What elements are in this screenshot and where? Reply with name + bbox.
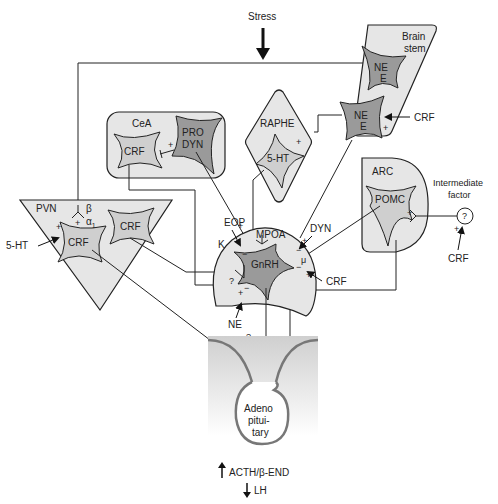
pvn-crf-1-label: CRF — [68, 237, 89, 248]
mu-receptor-label: μ — [301, 255, 306, 265]
stress-reproductive-axis-diagram: Stress Brain stem NE E NE E CRF + CeA CR… — [0, 0, 498, 504]
arc-label: ARC — [372, 166, 393, 177]
brainstem-crf-label: CRF — [414, 112, 435, 123]
pvn-plus-1: + — [75, 218, 80, 228]
gnrh-label: GnRH — [251, 259, 279, 270]
lh-output-label: LH — [254, 485, 267, 496]
mpoa-plus-1: + — [238, 221, 243, 231]
ne-cell-1-label-2: E — [380, 73, 387, 84]
adeno-label-3: tary — [252, 427, 269, 438]
pvn-label: PVN — [36, 203, 57, 214]
arc-region: ARC POMC + — [362, 158, 428, 252]
intermediate-factor: Intermediate factor ? + CRF — [433, 178, 483, 264]
ne-to-mpoa-arrow-icon — [236, 304, 241, 318]
pvn-5ht-input-label: 5-HT — [6, 240, 28, 251]
raphe-region: RAPHE 5-HT + — [246, 90, 312, 202]
adeno-label-1: Adeno — [244, 403, 273, 414]
arc-plus-sign: + — [407, 208, 412, 218]
pvn-region: PVN β α1 + CRF CRF + 5-HT — [6, 200, 172, 310]
raphe-to-mpoa-wire — [253, 170, 264, 236]
brainstem-label-1: Brain — [402, 31, 425, 42]
mpoa-minus-2: − — [244, 283, 249, 293]
cea-label: CeA — [132, 118, 152, 129]
brainstem-region: Brain stem NE E NE E CRF + — [340, 25, 437, 140]
stress-arrowhead-icon — [256, 48, 270, 60]
ne-cell-2-label-2: E — [360, 121, 367, 132]
mpoa-label: MPOA — [256, 229, 286, 240]
mpoa-crf-label: CRF — [326, 276, 347, 287]
cea-crf-label: CRF — [124, 146, 145, 157]
cea-plus-sign: + — [168, 140, 173, 150]
intermediate-label-2: factor — [448, 190, 471, 200]
mpoa-ne-label: NE — [228, 319, 242, 330]
raphe-label: RAPHE — [260, 118, 295, 129]
adeno-label-2: pitui- — [248, 415, 270, 426]
brainstem-to-raphe-wire — [314, 115, 342, 132]
intermediate-plus-sign: + — [454, 224, 459, 234]
mpoa-plus-3: + — [302, 236, 307, 246]
cea-region: CeA CRF PRO DYN + — [107, 112, 225, 178]
intermediate-label-1: Intermediate — [433, 178, 483, 188]
pvn-crf-2-label: CRF — [120, 221, 141, 232]
mpoa-minus-1: − — [242, 249, 247, 259]
up-arrowhead-icon — [218, 462, 226, 468]
mpoa-region: MPOA GnRH EOP K DYN μ CRF NE ? + − + − −… — [213, 217, 346, 330]
mpoa-minus-3: − — [296, 245, 301, 255]
mpoa-minus-4: − — [296, 262, 301, 272]
stress-label: Stress — [248, 11, 276, 22]
prodyn-label-1: PRO — [182, 127, 204, 138]
intermediate-question: ? — [462, 211, 467, 221]
brainstem-label-2: stem — [404, 43, 426, 54]
pvn-plus-2: + — [56, 222, 61, 232]
ne-cell-1-label: NE — [374, 62, 388, 73]
mpoa-plus-4: + — [306, 270, 311, 280]
raphe-5ht-label: 5-HT — [267, 153, 289, 164]
ne-cell-2-label: NE — [354, 110, 368, 121]
mpoa-question-label: ? — [229, 276, 234, 286]
adenopituitary: Adeno pitui- tary — [208, 336, 318, 444]
mpoa-plus-2: + — [238, 288, 243, 298]
pomc-label: POMC — [375, 194, 405, 205]
intermediate-crf-label: CRF — [448, 253, 469, 264]
kappa-label: K — [218, 239, 225, 250]
stress-input: Stress — [248, 11, 276, 60]
down-arrowhead-icon — [243, 492, 251, 498]
raphe-plus-sign: + — [296, 137, 301, 147]
acth-bend-output-label: ACTH/β-END — [229, 467, 289, 478]
beta-receptor-label: β — [86, 203, 92, 214]
brainstem-plus-sign: + — [383, 123, 388, 133]
prodyn-label-2: DYN — [182, 139, 203, 150]
pituitary-outputs: ACTH/β-END LH — [218, 462, 289, 498]
dyn-label: DYN — [310, 223, 331, 234]
